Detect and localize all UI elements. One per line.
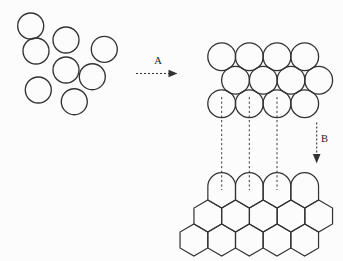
arrow-b: B — [313, 123, 328, 164]
particle-circle — [25, 77, 51, 103]
hexagon-cell — [235, 224, 263, 256]
arrow-a-head — [169, 70, 178, 78]
hexagon-cell — [222, 200, 250, 232]
particle-circle — [53, 57, 79, 83]
packed-circle — [291, 90, 319, 118]
hexagon-cell — [208, 224, 236, 256]
hexagon-cell — [291, 224, 319, 256]
hexagon-cell — [194, 200, 222, 232]
packed-circles-group — [208, 43, 333, 118]
particle-state-diagram: AB — [0, 0, 343, 261]
hexagon-cell — [249, 200, 277, 232]
particle-circle — [23, 38, 49, 64]
honeycomb-lattice-group — [180, 173, 332, 256]
hexagon-cell — [180, 224, 208, 256]
particle-circle — [79, 64, 105, 90]
hexagon-cell — [305, 200, 333, 232]
hexagon-cell — [263, 224, 291, 256]
particle-circle — [61, 89, 87, 115]
diagram-canvas: AB — [0, 0, 343, 261]
arrow-a-label: A — [154, 55, 162, 66]
arrow-a: A — [136, 55, 178, 78]
particle-circle — [18, 13, 44, 39]
scattered-circles-group — [18, 13, 118, 115]
hexagon-cell — [277, 200, 305, 232]
arrow-b-label: B — [321, 133, 328, 144]
arrow-b-head — [313, 154, 321, 164]
particle-circle — [53, 27, 79, 53]
particle-circle — [91, 36, 117, 62]
